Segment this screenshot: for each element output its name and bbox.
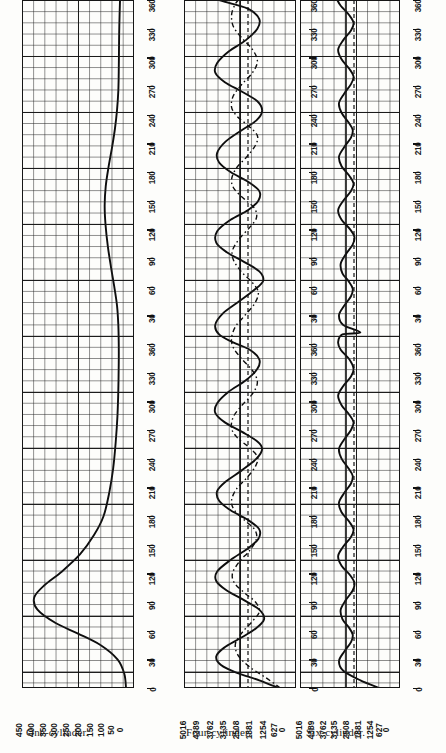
angle-tick-mark [413,315,420,316]
angle-ticks-one-cylinder: 3603303002702402101801501209060303603303… [134,0,154,688]
angle-tick-label: 270 [415,430,424,443]
angle-tick-label: 210 [415,487,424,500]
angle-tick-label: 330 [149,372,158,385]
angle-tick-mark [413,57,420,58]
angle-tick-mark [413,115,420,116]
angle-tick-mark [147,344,154,345]
angle-tick-mark [413,631,420,632]
angle-tick-label: 330 [149,28,158,41]
angle-tick-mark [147,258,154,259]
angle-tick-mark [413,229,420,230]
angle-tick-label: 270 [415,86,424,99]
angle-tick-mark [413,401,420,402]
angle-tick-mark [147,172,154,173]
angle-tick-label: 240 [149,458,158,471]
angle-tick-label: 120 [149,229,158,242]
torque-scale-six-cylinder: 50164389376231352508188112546270 [300,690,400,730]
angle-tick-label: 240 [149,114,158,127]
angle-tick-mark [413,0,420,1]
angle-tick-label: 210 [149,487,158,500]
angle-tick-label: 180 [149,172,158,185]
angle-tick-label: 300 [149,401,158,414]
angle-tick-mark [413,688,420,689]
angle-tick-label: 300 [415,401,424,414]
angle-tick-mark [413,602,420,603]
angle-tick-mark [147,659,154,660]
angle-tick-mark [147,143,154,144]
figure-page: 3603303002702402101801501209060303603303… [0,0,446,753]
angle-tick-label: 150 [415,544,424,557]
angle-tick-mark [147,688,154,689]
angle-tick-label: 330 [415,372,424,385]
angle-tick-label: 210 [149,143,158,156]
angle-tick-mark [413,573,420,574]
angle-tick-mark [147,545,154,546]
angle-tick-mark [413,459,420,460]
angle-tick-mark [413,287,420,288]
angle-tick-label: 270 [149,430,158,443]
torque-scale-four-cylinder: 50164389376231352508188112546270 [184,690,296,730]
panel-caption-four-cylinder: Four-cylinder. [186,726,251,738]
angle-tick-mark [413,172,420,173]
angle-tick-label: 330 [415,28,424,41]
angle-tick-mark [147,315,154,316]
grid-coarse-six-cylinder [300,0,400,688]
angle-tick-mark [413,29,420,30]
torque-scale-label: 0 [115,728,125,733]
angle-tick-mark [413,258,420,259]
angle-tick-mark [147,115,154,116]
angle-tick-label: 150 [149,544,158,557]
angle-tick-mark [413,373,420,374]
panel-four-cylinder [184,0,296,688]
panel-one-cylinder [22,0,134,688]
angle-tick-label: 270 [149,86,158,99]
grid-coarse-four-cylinder [184,0,296,688]
angle-tick-mark [147,516,154,517]
angle-tick-label: 120 [149,573,158,586]
angle-tick-mark [413,516,420,517]
angle-tick-mark [147,86,154,87]
angle-tick-label: 180 [149,516,158,529]
angle-tick-mark [413,430,420,431]
angle-tick-label: 240 [415,114,424,127]
angle-tick-mark [147,373,154,374]
torque-scale-label: 5016 [294,721,304,740]
torque-diagram-plate: 3603303002702402101801501209060303603303… [0,0,446,753]
angle-tick-mark [413,201,420,202]
angle-tick-mark [147,57,154,58]
panel-caption-one-cylinder: One-cylinder. [26,726,89,738]
angle-tick-mark [147,459,154,460]
angle-tick-mark [147,487,154,488]
torque-scale-label: 0 [277,728,287,733]
angle-tick-mark [147,287,154,288]
angle-tick-mark [147,29,154,30]
angle-tick-mark [413,487,420,488]
torque-scale-one-cylinder: 450400350300250200150100500 [22,690,134,730]
angle-tick-mark [147,573,154,574]
angle-tick-label: 360 [149,0,158,12]
angle-tick-mark [147,0,154,1]
angle-tick-mark [147,401,154,402]
torque-scale-label: 0 [381,728,391,733]
angle-tick-mark [413,143,420,144]
angle-tick-label: 360 [149,344,158,357]
angle-tick-label: 150 [149,200,158,213]
angle-tick-label: 180 [415,516,424,529]
angle-tick-label: 360 [415,0,424,12]
angle-tick-label: 360 [415,344,424,357]
torque-scale-label: 1254 [258,721,268,740]
angle-tick-mark [147,229,154,230]
angle-tick-label: 300 [149,57,158,70]
angle-tick-mark [147,631,154,632]
angle-ticks-six-cylinder: 3603303002702402101801501209060303603303… [400,0,420,688]
angle-tick-label: 240 [415,458,424,471]
grid-coarse-one-cylinder [22,0,134,688]
angle-tick-label: 120 [415,573,424,586]
angle-tick-label: 120 [415,229,424,242]
figure-caption: FIG. 232.—Edge's Torque Diagrams for one… [433,745,444,753]
angle-tick-mark [413,86,420,87]
angle-tick-label: 300 [415,57,424,70]
angle-tick-mark [413,659,420,660]
angle-tick-mark [413,545,420,546]
angle-tick-mark [413,344,420,345]
